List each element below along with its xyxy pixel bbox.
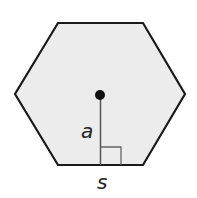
- center-point: [95, 90, 105, 100]
- hexagon-diagram: a s: [0, 0, 197, 198]
- side-label: s: [97, 170, 107, 194]
- apothem-label: a: [81, 119, 93, 143]
